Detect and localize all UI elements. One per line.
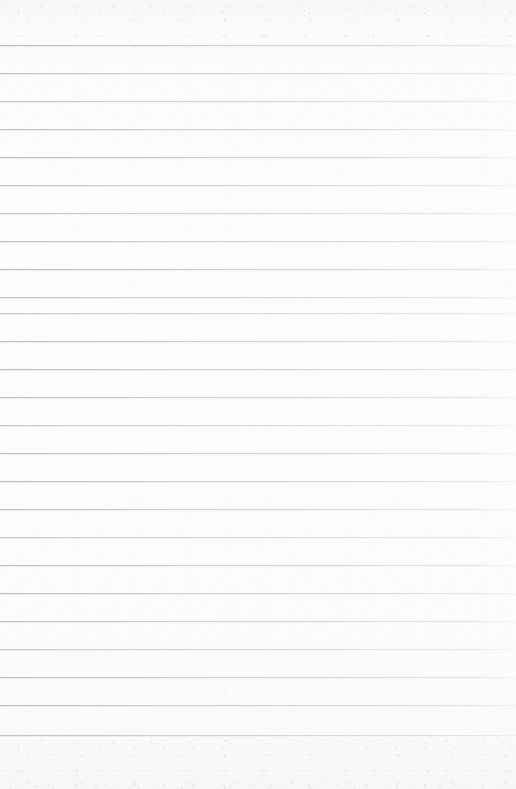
rule-line (0, 313, 516, 314)
rule-line (0, 45, 516, 46)
rule-line (0, 735, 516, 736)
rule-line (0, 269, 516, 270)
rule-line (0, 509, 516, 510)
rule-line (0, 369, 516, 370)
rule-line (0, 397, 516, 398)
rule-line (0, 73, 516, 74)
rule-line (0, 297, 516, 298)
rule-line (0, 101, 516, 102)
rule-line (0, 425, 516, 426)
rule-line (0, 129, 516, 130)
rule-line (0, 241, 516, 242)
rule-line (0, 621, 516, 622)
rule-line (0, 705, 516, 706)
rule-lines (0, 0, 516, 789)
rule-line (0, 537, 516, 538)
rule-line (0, 453, 516, 454)
rule-line (0, 157, 516, 158)
rule-line (0, 341, 516, 342)
rule-line (0, 481, 516, 482)
rule-line (0, 565, 516, 566)
rule-line (0, 213, 516, 214)
scanned-page (0, 0, 516, 789)
rule-line (0, 593, 516, 594)
rule-line (0, 649, 516, 650)
rule-line (0, 677, 516, 678)
rule-line (0, 185, 516, 186)
